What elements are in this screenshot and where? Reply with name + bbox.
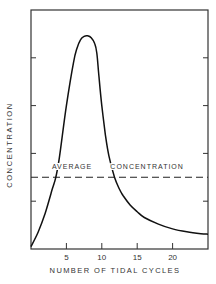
y-axis-label: CONCENTRATION (5, 102, 14, 188)
x-tick-label: 20 (168, 253, 177, 262)
annotation-label: CONCENTRATION (110, 163, 184, 170)
x-tick-label: 10 (97, 253, 106, 262)
x-axis-label: NUMBER OF TIDAL CYCLES (0, 266, 216, 275)
chart-canvas (0, 0, 216, 284)
concentration-curve (31, 36, 208, 247)
plot-frame (31, 10, 208, 249)
axis-ticks (31, 58, 208, 249)
x-tick-label: 5 (64, 253, 68, 262)
x-tick-label: 15 (133, 253, 142, 262)
annotation-label: AVERAGE (52, 163, 92, 170)
